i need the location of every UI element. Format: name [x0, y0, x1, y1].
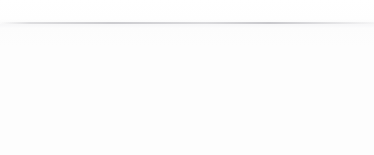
start-arrow	[2, 43, 40, 48]
edge-label-sigma4-sigma3: a	[276, 92, 280, 102]
edge-label-sigma2-sigma3: b	[292, 32, 296, 42]
state-label-sigma-2: σ2	[242, 42, 249, 51]
transition-sigma2-sigma3	[257, 43, 323, 48]
edge-label-sigma0-sigma4: b	[108, 90, 112, 100]
state-label-sigma-1: σ1	[146, 42, 153, 51]
self-loop-lower-sigma3	[333, 57, 368, 88]
edge-label-self-loop-lower: b	[365, 84, 369, 94]
self-loop-upper-sigma3	[329, 0, 356, 34]
edge-label-sigma0-sigma1: a	[95, 32, 99, 42]
transition-sigma1-sigma2	[161, 43, 233, 48]
transition-sigma4-sigma3	[212, 56, 327, 132]
state-label-sigma-4: σ4	[197, 132, 204, 141]
edge-label-self-loop-upper: a	[364, 0, 368, 9]
edge-label-sigma1-sigma2: b	[195, 32, 199, 42]
automaton-diagram-canvas: σ0 σ1 σ2 σ3 σ4 a b b b a a b	[0, 0, 374, 155]
state-label-sigma-3: σ3	[334, 42, 341, 51]
transition-sigma0-sigma1	[64, 43, 137, 48]
state-label-sigma-0: σ0	[49, 42, 56, 51]
automaton-graph	[0, 0, 374, 155]
transition-sigma0-sigma4	[61, 54, 189, 132]
